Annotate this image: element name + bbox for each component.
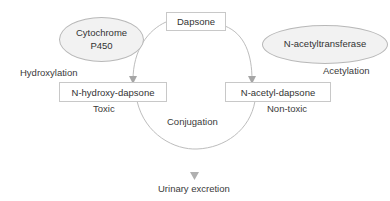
arrow-to-n-acetyl-dapsone <box>225 26 252 80</box>
label-conjugation: Conjugation <box>167 117 218 127</box>
node-dapsone: Dapsone <box>166 12 226 31</box>
label-urinary-excretion: Urinary excretion <box>158 184 230 194</box>
label-toxic: Toxic <box>93 104 115 114</box>
node-n-hydroxy-dapsone: N-hydroxy-dapsone <box>59 82 167 102</box>
node-n-acetyl-dapsone-label: N-acetyl-dapsone <box>241 87 315 98</box>
node-cytochrome-p450: Cytochrome P450 <box>59 17 144 62</box>
label-hydroxylation: Hydroxylation <box>20 68 78 78</box>
node-cytochrome-p450-label: Cytochrome P450 <box>76 27 127 52</box>
label-non-toxic: Non-toxic <box>267 104 307 114</box>
node-n-hydroxy-dapsone-label: N-hydroxy-dapsone <box>72 87 155 98</box>
node-n-acetyltransferase-label: N-acetyltransferase <box>284 38 366 50</box>
cytochrome-line1: Cytochrome <box>76 27 127 38</box>
label-acetylation: Acetylation <box>323 66 369 76</box>
node-n-acetyltransferase: N-acetyltransferase <box>262 25 388 64</box>
urinary-excretion-arrow-icon <box>190 172 199 180</box>
dapsone-metabolism-diagram: Dapsone Cytochrome P450 N-acetyltransfer… <box>0 0 390 201</box>
node-dapsone-label: Dapsone <box>177 16 215 27</box>
cytochrome-line2: P450 <box>90 40 112 51</box>
node-n-acetyl-dapsone: N-acetyl-dapsone <box>225 82 331 102</box>
